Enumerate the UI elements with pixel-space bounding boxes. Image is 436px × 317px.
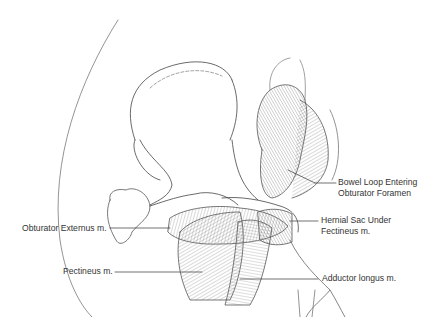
label-pectineus: Pectineus m. — [63, 266, 113, 277]
hernial-sac — [258, 209, 292, 245]
label-obturator-externus: Obturator Externus m. — [22, 223, 107, 234]
label-adductor-longus: Adductor longus m. — [322, 273, 396, 284]
label-line: Obturator Externus m. — [22, 223, 107, 234]
label-line: Fectineus m. — [321, 226, 391, 237]
label-line: Adductor longus m. — [322, 273, 396, 284]
label-line: Bowel Loop Entering — [338, 177, 417, 188]
label-line: Hernial Sac Under — [321, 215, 391, 226]
label-line: Pectineus m. — [63, 266, 113, 277]
label-hernial-sac: Hernial Sac Under Fectineus m. — [321, 215, 391, 236]
label-bowel-loop: Bowel Loop Entering Obturator Foramen — [338, 177, 417, 198]
anatomical-illustration: Bowel Loop Entering Obturator Foramen He… — [0, 0, 436, 317]
label-line: Obturator Foramen — [338, 188, 417, 199]
iliac-wing — [130, 62, 232, 205]
femur-head — [108, 189, 150, 244]
